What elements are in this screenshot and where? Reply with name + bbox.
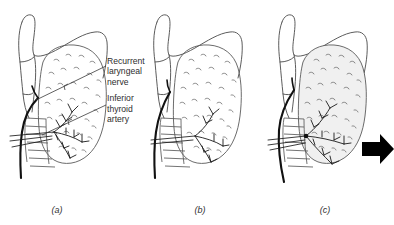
larynx-cartilage xyxy=(19,22,29,118)
caption-panel-b: (b) xyxy=(180,205,220,215)
label-line-nerve: nerve xyxy=(107,77,169,87)
panel-c xyxy=(262,0,392,200)
leader-line-nerve xyxy=(36,66,106,100)
gland-texture xyxy=(180,54,236,152)
larynx-cartilage xyxy=(279,22,289,118)
trachea-rings xyxy=(25,118,55,167)
label-group: Recurrent laryngeal nerve Inferior thyro… xyxy=(107,56,169,124)
artery-nerve-junction xyxy=(304,134,309,139)
nerve-upper-hook xyxy=(292,78,294,90)
label-line-thyroid: thyroid xyxy=(107,104,169,114)
caption-panel-a: (a) xyxy=(37,205,77,215)
label-recurrent-laryngeal-nerve: Recurrent laryngeal nerve xyxy=(107,56,169,87)
larynx-lower-notch xyxy=(23,93,33,95)
caption-panel-c: (c) xyxy=(305,205,345,215)
leader-lines xyxy=(36,66,106,135)
anatomical-figure: Recurrent laryngeal nerve Inferior thyro… xyxy=(0,0,394,225)
larynx-notch xyxy=(20,57,34,62)
label-line-laryngeal: laryngeal xyxy=(107,66,169,76)
label-line-inferior: Inferior xyxy=(107,93,169,103)
thyroid-gland-lobe xyxy=(38,45,106,164)
thyroid-gland-lobe xyxy=(173,45,241,164)
thyroid-gland-lobe xyxy=(298,45,366,164)
label-line-artery: artery xyxy=(107,114,169,124)
label-line-recurrent: Recurrent xyxy=(107,56,169,66)
arrow-right-icon xyxy=(362,134,394,164)
label-inferior-thyroid-artery: Inferior thyroid artery xyxy=(107,93,169,124)
panel-c-drawing xyxy=(262,0,394,200)
recurrent-laryngeal-nerve xyxy=(279,90,294,182)
